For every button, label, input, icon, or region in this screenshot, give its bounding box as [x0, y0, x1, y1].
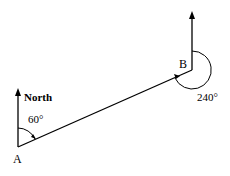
- angle-label-a: 60°: [28, 113, 43, 125]
- north-label: North: [24, 91, 52, 103]
- point-label-a: A: [13, 152, 22, 166]
- point-label-b: B: [179, 57, 187, 71]
- arrowhead-icon: [189, 11, 195, 19]
- bearing-diagram: North 60° A B 240°: [0, 0, 230, 176]
- angle-arc-a: [18, 128, 36, 139]
- angle-label-b: 240°: [197, 91, 218, 103]
- path-a-to-b: [18, 70, 192, 147]
- north-arrow-b: [189, 11, 195, 70]
- arrowhead-icon: [15, 88, 21, 96]
- north-arrow-a: [15, 88, 21, 147]
